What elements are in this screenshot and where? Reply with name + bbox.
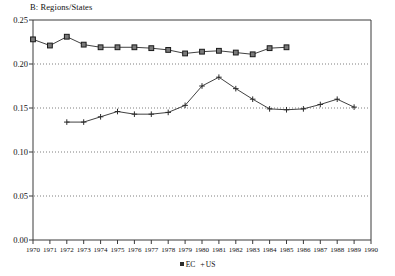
plot-area (0, 0, 395, 276)
square-marker-icon (64, 34, 69, 39)
x-tick-label: 1979 (178, 246, 192, 254)
x-tick-label: 1984 (263, 246, 277, 254)
y-tick-label: 0.00 (2, 235, 28, 245)
x-tick-label: 1985 (280, 246, 294, 254)
x-tick-label: 1983 (246, 246, 260, 254)
x-tick-label: 1980 (195, 246, 209, 254)
square-marker-icon (180, 262, 184, 266)
square-marker-icon (132, 45, 137, 50)
series-line (67, 77, 354, 122)
square-marker-icon (200, 49, 205, 54)
chart-figure: B: Regions/States 0.000.050.100.150.200.… (0, 0, 395, 276)
series-line (33, 37, 287, 55)
legend-entry-ec[interactable]: EC (180, 259, 196, 269)
square-marker-icon (115, 45, 120, 50)
series-ec (31, 34, 289, 56)
x-tick-label: 1977 (144, 246, 158, 254)
square-marker-icon (250, 52, 255, 57)
square-marker-icon (233, 50, 238, 55)
square-marker-icon (183, 51, 188, 56)
square-marker-icon (81, 42, 86, 47)
y-tick-label: 0.05 (2, 191, 28, 201)
square-marker-icon (98, 45, 103, 50)
y-tick-marks-group (29, 20, 33, 240)
x-tick-label: 1978 (161, 246, 175, 254)
x-tick-label: 1972 (60, 246, 74, 254)
x-tick-label: 1971 (43, 246, 57, 254)
y-tick-label: 0.20 (2, 59, 28, 69)
square-marker-icon (284, 45, 289, 50)
plus-marker-icon: + (200, 261, 205, 269)
legend-label: US (206, 260, 216, 269)
x-tick-label: 1975 (111, 246, 125, 254)
x-tick-label: 1989 (347, 246, 361, 254)
series-us (64, 74, 357, 124)
x-tick-label: 1974 (94, 246, 108, 254)
y-tick-label: 0.15 (2, 103, 28, 113)
square-marker-icon (217, 48, 222, 53)
x-tick-marks-group (33, 240, 371, 244)
x-tick-label: 1970 (26, 246, 40, 254)
square-marker-icon (166, 48, 171, 53)
square-marker-icon (267, 46, 272, 51)
x-tick-label: 1988 (330, 246, 344, 254)
square-marker-icon (48, 43, 53, 48)
x-tick-label: 1990 (364, 246, 378, 254)
x-tick-label: 1976 (127, 246, 141, 254)
x-tick-label: 1981 (212, 246, 226, 254)
square-marker-icon (149, 46, 154, 51)
x-tick-label: 1987 (313, 246, 327, 254)
y-tick-label: 0.25 (2, 15, 28, 25)
legend-label: EC (186, 260, 196, 269)
x-tick-label: 1982 (229, 246, 243, 254)
legend-entry-us[interactable]: +US (200, 259, 215, 269)
data-series-group (31, 34, 357, 125)
square-marker-icon (31, 37, 36, 42)
x-tick-label: 1973 (77, 246, 91, 254)
x-tick-label: 1986 (296, 246, 310, 254)
y-tick-label: 0.10 (2, 147, 28, 157)
chart-legend: EC+US (0, 259, 395, 269)
